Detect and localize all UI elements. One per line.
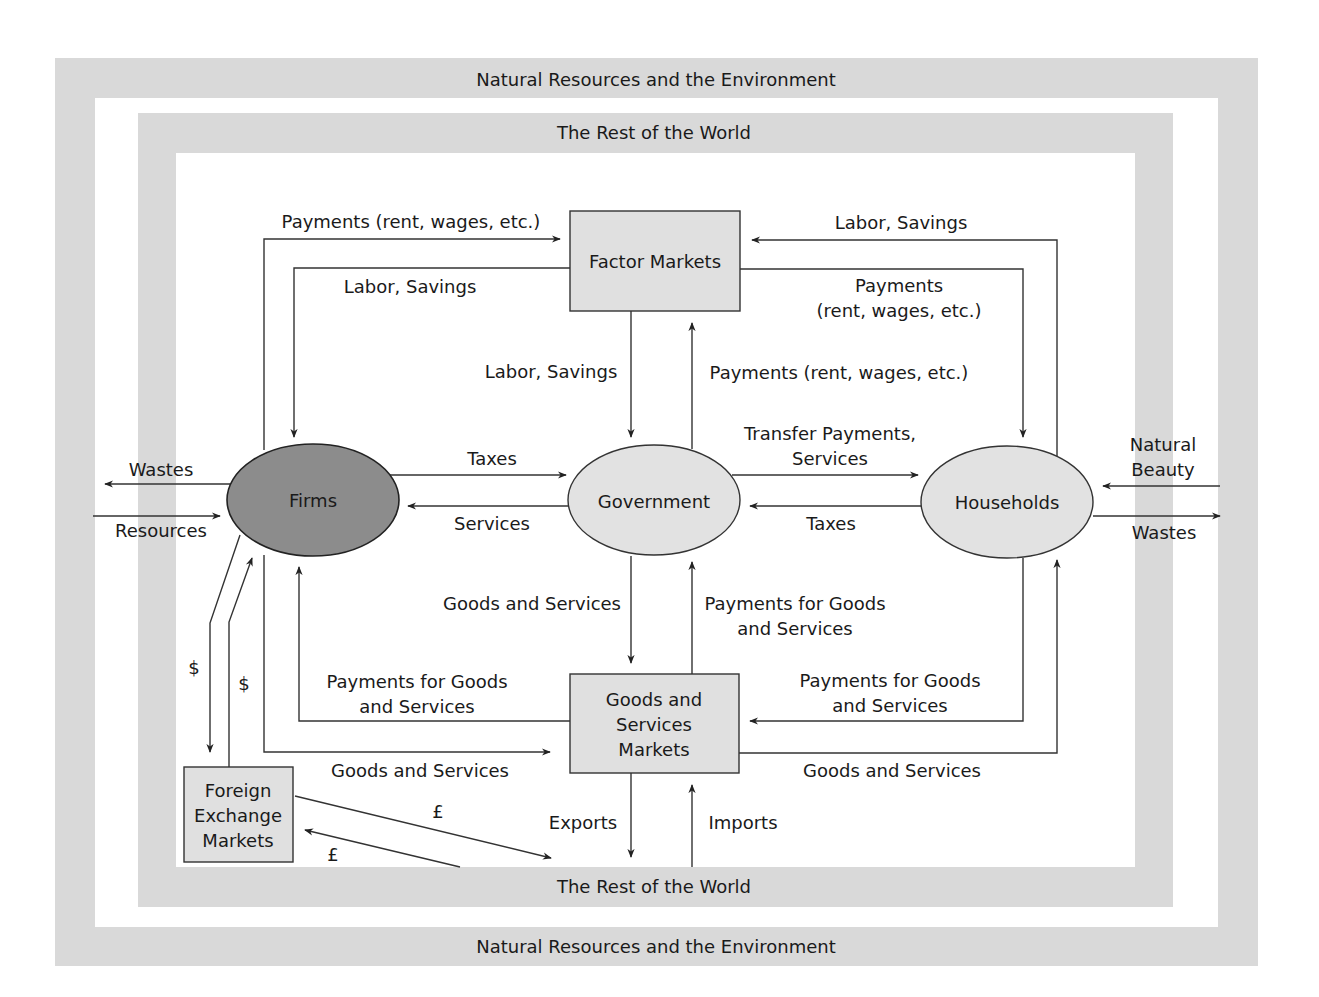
- inner-band-bottom-label: The Rest of the World: [556, 876, 751, 897]
- label-factor-to-gov: Labor, Savings: [485, 361, 618, 382]
- label-gov-to-hh-2: Services: [792, 448, 868, 469]
- label-goods-to-gov-1: Payments for Goods: [704, 593, 885, 614]
- label-factor-to-hh-1: Payments: [855, 275, 943, 296]
- goods-markets-label-2: Services: [616, 714, 692, 735]
- firms-node[interactable]: Firms: [227, 444, 399, 556]
- households-label: Households: [955, 492, 1060, 513]
- inner-band-top-label: The Rest of the World: [556, 122, 751, 143]
- label-firms-wastes: Wastes: [129, 459, 194, 480]
- label-firms-to-gov: Taxes: [466, 448, 517, 469]
- label-firms-to-goods: Goods and Services: [331, 760, 509, 781]
- label-hh-wastes: Wastes: [1132, 522, 1197, 543]
- label-factor-to-hh-2: (rent, wages, etc.): [817, 300, 982, 321]
- label-goods-to-firms-2: and Services: [359, 696, 475, 717]
- label-pound-out: £: [432, 801, 443, 822]
- label-gov-to-firms: Services: [454, 513, 530, 534]
- goods-markets-label-3: Markets: [618, 739, 689, 760]
- label-exports: Exports: [549, 812, 617, 833]
- label-gov-to-hh-1: Transfer Payments,: [743, 423, 916, 444]
- label-goods-to-firms-1: Payments for Goods: [326, 671, 507, 692]
- label-dollar-down: $: [188, 657, 199, 678]
- label-imports: Imports: [708, 812, 777, 833]
- label-gov-to-goods: Goods and Services: [443, 593, 621, 614]
- label-natural-beauty-2: Beauty: [1131, 459, 1195, 480]
- government-label: Government: [598, 491, 710, 512]
- label-gov-to-factor: Payments (rent, wages, etc.): [710, 362, 969, 383]
- label-firms-resources: Resources: [115, 520, 207, 541]
- goods-markets-label-1: Goods and: [606, 689, 702, 710]
- label-hh-to-goods-1: Payments for Goods: [799, 670, 980, 691]
- factor-markets-node[interactable]: Factor Markets: [570, 211, 740, 311]
- outer-band-bottom-label: Natural Resources and the Environment: [476, 936, 836, 957]
- label-hh-to-gov: Taxes: [805, 513, 856, 534]
- label-factor-to-firms: Labor, Savings: [344, 276, 477, 297]
- label-hh-to-factor: Labor, Savings: [835, 212, 968, 233]
- firms-label: Firms: [289, 490, 337, 511]
- fx-label-2: Exchange: [194, 805, 282, 826]
- households-node[interactable]: Households: [921, 446, 1093, 558]
- foreign-exchange-markets-node[interactable]: Foreign Exchange Markets: [184, 767, 293, 862]
- circular-flow-diagram: Natural Resources and the Environment Na…: [0, 0, 1319, 997]
- fx-label-1: Foreign: [205, 780, 272, 801]
- label-goods-to-gov-2: and Services: [737, 618, 853, 639]
- label-firms-to-factor: Payments (rent, wages, etc.): [282, 211, 541, 232]
- label-goods-to-hh: Goods and Services: [803, 760, 981, 781]
- factor-markets-label: Factor Markets: [589, 251, 721, 272]
- label-pound-in: £: [327, 844, 338, 865]
- label-natural-beauty-1: Natural: [1130, 434, 1196, 455]
- fx-label-3: Markets: [202, 830, 273, 851]
- label-hh-to-goods-2: and Services: [832, 695, 948, 716]
- government-node[interactable]: Government: [568, 445, 740, 555]
- outer-band-top-label: Natural Resources and the Environment: [476, 69, 836, 90]
- goods-services-markets-node[interactable]: Goods and Services Markets: [570, 674, 739, 773]
- label-dollar-up: $: [238, 673, 249, 694]
